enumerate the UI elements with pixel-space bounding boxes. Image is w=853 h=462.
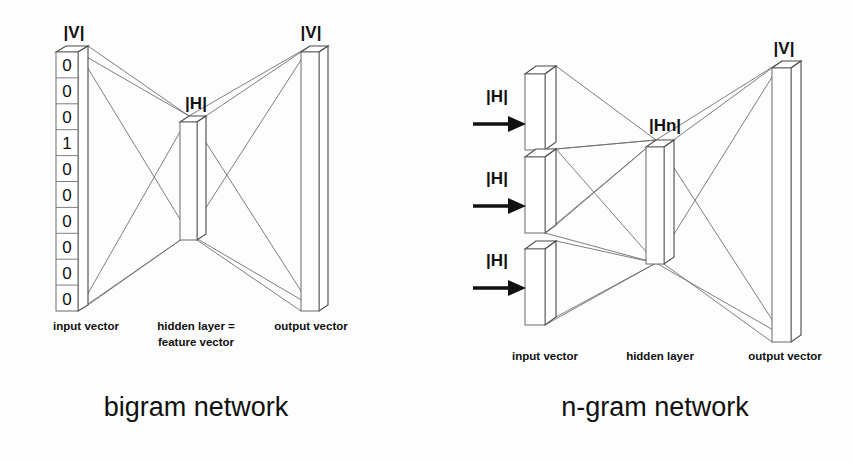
box-front-face	[525, 157, 545, 233]
edges-hidden-to-output-bigram	[189, 46, 310, 311]
bigram-input-vector-box: 0 0 0 1 0 0 0 0 0 0	[56, 46, 88, 311]
ngram-input-block-3	[525, 241, 556, 325]
ngram-input-block-1	[525, 66, 556, 150]
edge	[189, 116, 310, 305]
bigram-hidden-caption-line1: hidden layer =	[157, 320, 235, 332]
edge	[656, 61, 782, 263]
edge	[88, 46, 189, 116]
panel-bigram: 0 0 0 1 0 0 0 0 0 0	[53, 23, 348, 422]
input-cell-value: 1	[62, 134, 71, 153]
edge	[189, 234, 310, 305]
edge	[556, 140, 656, 149]
right-arrow-icon-head	[508, 198, 526, 214]
input-cell-value: 0	[62, 56, 71, 75]
ngram-input-arrow-2: |H|	[473, 169, 526, 214]
figure-root: 0 0 0 1 0 0 0 0 0 0	[0, 0, 853, 462]
box-side-face	[545, 149, 556, 233]
edge	[88, 234, 189, 305]
edge	[197, 52, 301, 122]
box-side-face	[791, 61, 801, 342]
ngram-output-dim-label: |V|	[774, 39, 795, 58]
ngram-output-vector-box	[772, 61, 801, 342]
ngram-input-dim-label-3: |H|	[486, 251, 508, 270]
edge	[656, 263, 782, 335]
edge	[556, 241, 656, 263]
ngram-panel-title: n-gram network	[561, 392, 749, 422]
right-arrow-icon-head	[508, 116, 526, 132]
edge	[664, 68, 772, 147]
ngram-hidden-layer-box	[646, 140, 674, 264]
input-cell-value: 0	[62, 186, 71, 205]
box-front-face	[646, 147, 664, 264]
bigram-output-vector-box	[301, 46, 328, 311]
edge	[556, 149, 656, 263]
ngram-input-arrow-3: |H|	[473, 251, 526, 296]
edge	[197, 240, 301, 311]
box-front-face	[180, 122, 197, 240]
bigram-output-caption: output vector	[274, 320, 348, 332]
bigram-hidden-layer-box	[180, 116, 206, 240]
input-cell-value: 0	[62, 82, 71, 101]
ngram-input-caption: input vector	[512, 350, 578, 362]
ngram-input-arrow-1: |H|	[473, 87, 526, 132]
box-side-face	[197, 116, 206, 240]
box-side-face	[545, 66, 556, 150]
edge	[656, 140, 782, 335]
edge	[545, 140, 656, 233]
box-front-face	[525, 74, 545, 150]
edge	[664, 264, 772, 342]
box-front-face	[525, 249, 545, 325]
panel-ngram: |H| |H| |H| |Hn| |V| input vector hidden…	[473, 39, 822, 422]
ngram-input-dim-label-2: |H|	[486, 169, 508, 188]
bigram-output-dim-label: |V|	[301, 23, 322, 42]
edges-input-to-hidden-bigram	[78, 46, 189, 311]
right-arrow-icon-head	[508, 280, 526, 296]
ngram-input-dim-label-1: |H|	[486, 87, 508, 106]
input-cell-value: 0	[62, 264, 71, 283]
neural-network-diagram: 0 0 0 1 0 0 0 0 0 0	[0, 0, 853, 462]
input-cell-value: 0	[62, 212, 71, 231]
edges-input-to-hidden-ngram	[545, 66, 656, 325]
bigram-hidden-dim-label: |H|	[185, 94, 207, 113]
edge	[78, 116, 189, 311]
ngram-hidden-dim-label: |Hn|	[649, 116, 681, 135]
ngram-input-block-2	[525, 149, 556, 233]
bigram-hidden-caption-line2: feature vector	[158, 336, 235, 348]
bigram-input-caption: input vector	[53, 320, 119, 332]
edge	[556, 66, 656, 140]
input-cell-value: 0	[62, 108, 71, 127]
box-side-face	[319, 46, 328, 311]
input-cell-value: 0	[62, 238, 71, 257]
box-front-face	[301, 52, 319, 311]
input-cell-value: 0	[62, 290, 71, 309]
edge	[78, 52, 189, 234]
bigram-input-dim-label: |V|	[64, 23, 85, 42]
edge	[545, 233, 656, 263]
ngram-hidden-caption: hidden layer	[626, 350, 694, 362]
bigram-panel-title: bigram network	[104, 392, 289, 422]
box-side-face	[78, 46, 88, 311]
edge	[556, 263, 656, 317]
ngram-output-caption: output vector	[748, 350, 822, 362]
box-side-face	[664, 140, 674, 264]
edge	[78, 52, 189, 116]
input-cell-value: 0	[62, 160, 71, 179]
edges-hidden-to-output-ngram	[656, 61, 782, 342]
edge	[189, 46, 310, 116]
box-side-face	[545, 241, 556, 325]
box-front-face	[772, 68, 791, 342]
edge	[189, 46, 310, 234]
